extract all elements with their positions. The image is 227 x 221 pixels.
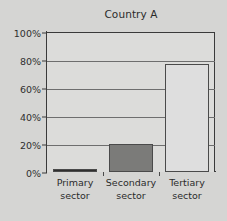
y-tick-label: 40%	[20, 112, 41, 123]
x-label-line: sector	[103, 190, 159, 203]
bar-tertiary-sector[interactable]	[165, 64, 209, 172]
y-tick-label: 80%	[20, 56, 41, 67]
y-tick-label: 20%	[20, 140, 41, 151]
y-tick-label: 60%	[20, 84, 41, 95]
x-tick-mark	[159, 172, 160, 176]
y-tick-label: 0%	[26, 168, 41, 179]
x-label-line: Tertiary	[159, 177, 215, 190]
y-tick-mark	[42, 89, 47, 90]
x-axis-label-tertiary-sector: Tertiarysector	[159, 177, 215, 202]
x-label-line: Secondary	[103, 177, 159, 190]
chart-title: Country A	[47, 8, 215, 20]
bar-secondary-sector[interactable]	[109, 144, 153, 172]
y-tick-mark	[42, 173, 47, 174]
x-label-line: sector	[159, 190, 215, 203]
x-tick-mark	[103, 172, 104, 176]
y-tick-mark	[42, 117, 47, 118]
bar-chart: Country A 0%20%40%60%80%100% Primarysect…	[0, 0, 227, 221]
x-axis-label-primary-sector: Primarysector	[47, 177, 103, 202]
y-tick-mark	[42, 33, 47, 34]
y-tick-label: 100%	[14, 28, 41, 39]
plot-area: 0%20%40%60%80%100%	[47, 32, 215, 172]
y-tick-mark	[42, 145, 47, 146]
x-label-line: Primary	[47, 177, 103, 190]
gridline	[47, 61, 215, 62]
x-axis-label-secondary-sector: Secondarysector	[103, 177, 159, 202]
bar-primary-sector[interactable]	[53, 169, 97, 172]
x-label-line: sector	[47, 190, 103, 203]
y-tick-mark	[42, 61, 47, 62]
